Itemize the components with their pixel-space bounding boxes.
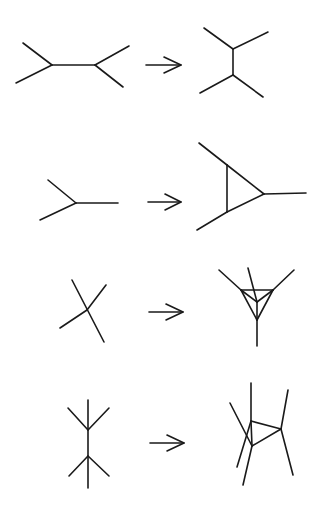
row-2-after-graph xyxy=(197,143,306,230)
graph-edge xyxy=(16,65,52,83)
graph-edge xyxy=(251,421,281,429)
graph-edge xyxy=(264,193,306,194)
graph-edge xyxy=(200,75,233,93)
graph-edge xyxy=(23,43,52,65)
graph-edge xyxy=(48,180,76,203)
graph-edge xyxy=(199,143,227,165)
row-1-before-graph xyxy=(16,43,129,87)
graph-edge xyxy=(243,446,252,485)
graph-edge xyxy=(69,456,88,476)
graph-edge xyxy=(87,285,106,310)
row-1-arrow-icon xyxy=(146,57,181,73)
graph-edge xyxy=(251,421,252,446)
diagram-canvas xyxy=(0,0,324,514)
row-3-before-graph xyxy=(60,280,106,342)
row-3 xyxy=(60,268,294,346)
row-2-before-graph xyxy=(40,180,118,220)
row-1-after-graph xyxy=(200,28,268,97)
graph-edge xyxy=(233,75,263,97)
graph-edge xyxy=(273,270,294,290)
graph-edge xyxy=(281,429,293,475)
graph-edge xyxy=(204,28,233,49)
graph-edge xyxy=(88,456,109,476)
graph-edge xyxy=(88,408,109,430)
row-4-after-graph xyxy=(230,383,293,485)
graph-edge xyxy=(227,194,264,212)
row-1 xyxy=(16,28,268,97)
graph-edge xyxy=(60,310,87,328)
graph-edge xyxy=(197,212,227,230)
graph-edge xyxy=(230,403,252,446)
row-2 xyxy=(40,143,306,230)
row-4 xyxy=(68,383,293,488)
diagram-svg xyxy=(0,0,324,514)
row-3-arrow-icon xyxy=(149,304,183,320)
graph-edge xyxy=(219,270,241,290)
graph-edge xyxy=(252,429,281,446)
row-4-arrow-icon xyxy=(150,435,184,451)
graph-edge xyxy=(95,65,123,87)
graph-edge xyxy=(68,408,88,430)
graph-edge xyxy=(281,390,288,429)
graph-edge xyxy=(72,280,104,342)
graph-edge xyxy=(95,46,129,65)
graph-edge xyxy=(227,165,264,194)
row-2-arrow-icon xyxy=(148,194,181,210)
graph-edge xyxy=(257,290,273,320)
graph-edge xyxy=(40,203,76,220)
row-4-before-graph xyxy=(68,400,109,488)
row-3-after-graph xyxy=(219,268,294,346)
graph-edge xyxy=(233,32,268,49)
